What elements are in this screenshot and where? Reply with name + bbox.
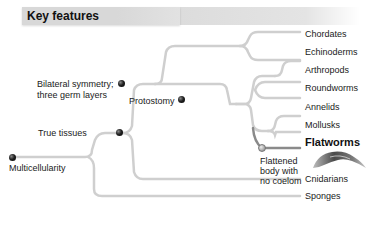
taxon-chordates: Chordates [305, 29, 347, 40]
node-protostomy [178, 96, 185, 103]
taxon-annelids: Annelids [305, 102, 340, 113]
label-bilateral-2: three germ layers [37, 90, 107, 101]
taxon-sponges: Sponges [305, 191, 341, 202]
label-true-tissues: True tissues [38, 128, 87, 139]
branch-arthropods-line [255, 82, 300, 90]
node-multicellularity [9, 154, 16, 161]
branch-roundworms-line [255, 90, 300, 98]
branch-echinoderms [240, 46, 300, 60]
branch-tissues-to-bilateral [123, 84, 155, 133]
branch-lophotrochozoa [236, 104, 268, 131]
label-protostomy: Protostomy [129, 96, 175, 107]
branch-chordates [240, 32, 300, 46]
node-bilateral [118, 80, 125, 87]
taxon-flatworms: Flatworms [305, 137, 360, 148]
flatworm-illustration-icon [310, 148, 370, 172]
label-bilateral-1: Bilateral symmetry; [37, 79, 114, 90]
taxon-arthropods: Arthropods [305, 65, 349, 76]
node-true-tissues [116, 129, 123, 136]
node-flattened [258, 144, 266, 152]
label-flattened-3: no coelom [260, 176, 302, 187]
branch-annelids [268, 116, 300, 131]
taxon-echinoderms: Echinoderms [305, 47, 358, 58]
taxon-roundworms: Roundworms [305, 83, 358, 94]
taxon-mollusks: Mollusks [305, 120, 340, 131]
branch-deuterostomes [155, 46, 240, 84]
label-multicellularity: Multicellularity [9, 163, 66, 174]
taxon-cnidarians: Cnidarians [305, 174, 348, 185]
branch-mollusks [268, 131, 300, 135]
